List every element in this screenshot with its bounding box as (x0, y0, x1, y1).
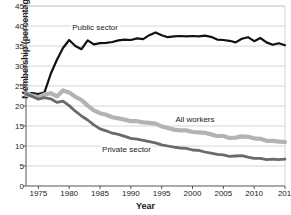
series-label-public-sector: Public sector (71, 23, 119, 32)
union-membership-chart: Membership (percentage) Year 05101520253… (0, 0, 291, 215)
series-annotations: Public sectorAll workersPrivate sector (0, 0, 291, 215)
series-label-all-workers: All workers (174, 115, 215, 124)
series-label-private-sector: Private sector (101, 145, 152, 154)
